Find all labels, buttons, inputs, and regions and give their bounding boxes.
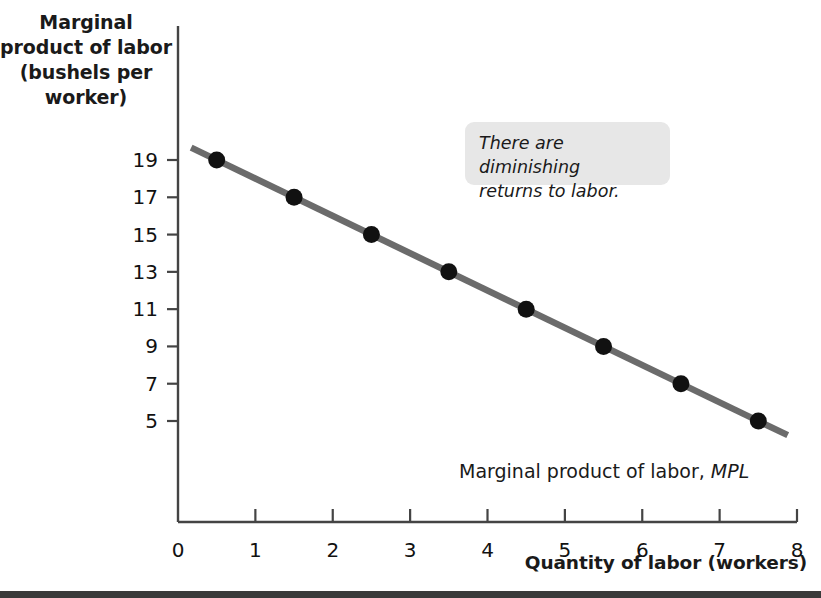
x-axis-ticks	[255, 509, 797, 522]
x-tick-label-0: 0	[172, 538, 185, 562]
chart-figure: Marginal product of labor (bushels per w…	[0, 0, 821, 598]
x-tick-label-4: 4	[481, 538, 494, 562]
x-tick-label-3: 3	[404, 538, 417, 562]
callout-text: There are diminishing returns to labor.	[479, 131, 656, 203]
axis-lines	[178, 26, 797, 522]
y-tick-label-13: 13	[118, 260, 158, 284]
y-tick-label-19: 19	[118, 148, 158, 172]
y-tick-label-9: 9	[118, 334, 158, 358]
y-axis-ticks	[167, 160, 178, 421]
y-tick-label-7: 7	[118, 372, 158, 396]
y-tick-label-5: 5	[118, 409, 158, 433]
y-tick-label-11: 11	[118, 297, 158, 321]
series-label-symbol: MPL	[711, 460, 749, 482]
x-tick-label-1: 1	[249, 538, 262, 562]
y-tick-label-15: 15	[118, 223, 158, 247]
callout-line-2: returns to labor.	[479, 181, 620, 201]
series-label-text: Marginal product of labor,	[459, 460, 711, 482]
x-tick-label-2: 2	[326, 538, 339, 562]
x-axis-title: Quantity of labor (workers)	[525, 552, 807, 573]
diminishing-returns-callout: There are diminishing returns to labor.	[465, 122, 670, 185]
bottom-rule	[0, 591, 821, 598]
series-label: Marginal product of labor, MPL	[459, 460, 749, 482]
callout-line-1: There are diminishing	[479, 133, 580, 177]
y-tick-label-17: 17	[118, 185, 158, 209]
